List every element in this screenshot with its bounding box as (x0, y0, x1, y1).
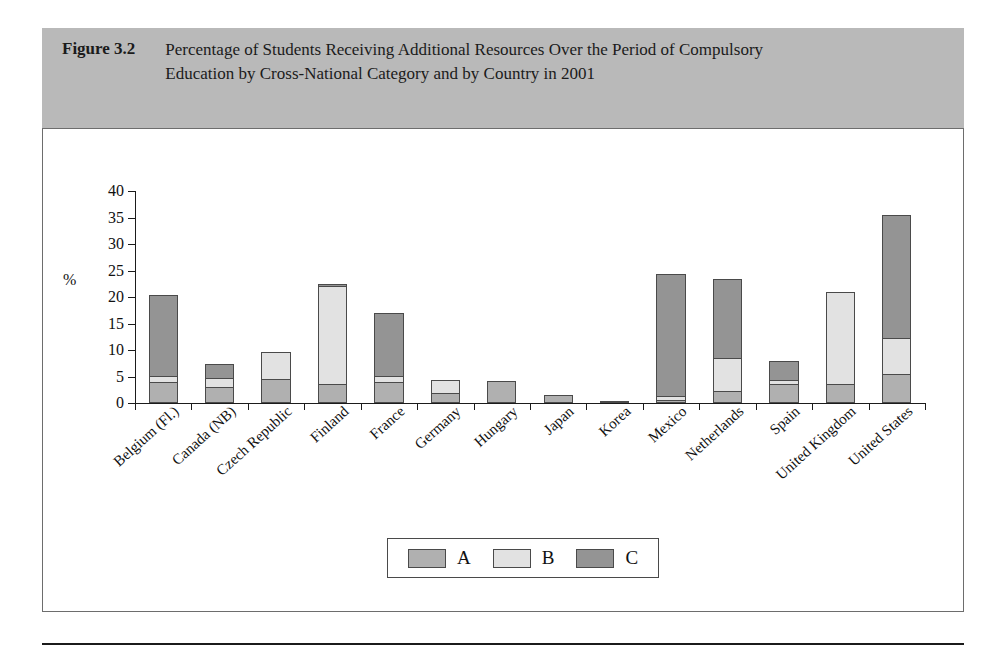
y-tick (128, 297, 135, 298)
y-tick (128, 403, 135, 404)
bar-segment-a (261, 379, 290, 403)
bar-segment-b (318, 286, 347, 385)
y-tick-label: 5 (116, 369, 124, 385)
bar-segment-a (205, 387, 234, 403)
bar-segment-c (769, 361, 798, 381)
y-tick (128, 377, 135, 378)
bar-segment-c (882, 215, 911, 339)
bar-segment-c (713, 279, 742, 359)
x-tick (304, 403, 305, 410)
legend-swatch-c-icon (576, 549, 614, 568)
figure-header-inner: Figure 3.2 Percentage of Students Receiv… (62, 38, 950, 86)
bar-segment-b (261, 352, 290, 380)
x-axis-label: Japan (541, 403, 578, 438)
figure-title: Percentage of Students Receiving Additio… (165, 38, 825, 86)
bar-segment-c (205, 364, 234, 379)
bar-netherlands (713, 280, 742, 403)
bar-segment-b (431, 380, 460, 394)
y-tick-label: 25 (108, 263, 124, 279)
y-tick-label: 15 (108, 316, 124, 332)
bar-segment-a (318, 384, 347, 403)
bar-segment-b (713, 358, 742, 392)
x-axis-label: Korea (595, 403, 634, 440)
bar-segment-b (826, 292, 855, 385)
figure-header-band: Figure 3.2 Percentage of Students Receiv… (42, 28, 964, 128)
y-axis (135, 191, 136, 403)
bar-segment-a (769, 384, 798, 403)
bar-hungary (487, 382, 516, 403)
x-tick (925, 403, 926, 410)
y-tick (128, 350, 135, 351)
figure-page: Figure 3.2 Percentage of Students Receiv… (0, 0, 1008, 667)
x-tick (530, 403, 531, 410)
x-axis-label: Spain (767, 403, 804, 438)
x-axis-label: Netherlands (682, 403, 747, 464)
bar-france (374, 314, 403, 403)
y-tick-label: 35 (108, 210, 124, 226)
x-tick (361, 403, 362, 410)
legend-swatch-a-icon (408, 549, 446, 568)
x-axis-label: Finland (306, 403, 351, 446)
bar-korea (600, 402, 629, 403)
x-tick (417, 403, 418, 410)
bar-czech-republic (261, 353, 290, 403)
x-tick (586, 403, 587, 410)
bar-segment-a (431, 393, 460, 403)
y-tick (128, 218, 135, 219)
bar-segment-a (713, 391, 742, 403)
legend-label-a: A (457, 547, 471, 569)
bar-spain (769, 362, 798, 403)
x-axis-label: France (367, 403, 409, 443)
bar-japan (544, 396, 573, 403)
bar-segment-c (149, 295, 178, 377)
x-axis-label: Hungary (471, 403, 521, 451)
x-tick (756, 403, 757, 410)
bar-segment-a (374, 382, 403, 403)
bar-segment-a (656, 400, 685, 403)
x-tick (869, 403, 870, 410)
x-tick (191, 403, 192, 410)
footer-rule (42, 643, 964, 645)
bar-united-states (882, 216, 911, 403)
x-tick (699, 403, 700, 410)
figure-number: Figure 3.2 (62, 38, 135, 59)
y-tick-label: 0 (116, 395, 124, 411)
legend-label-b: B (542, 547, 555, 569)
x-tick (248, 403, 249, 410)
bar-germany (431, 381, 460, 403)
legend-item-a: A (408, 547, 471, 569)
x-tick (643, 403, 644, 410)
bar-mexico (656, 275, 685, 403)
bar-finland (318, 285, 347, 403)
bar-belgium-fl (149, 296, 178, 403)
bar-segment-a (544, 395, 573, 403)
legend-item-c: C (576, 547, 638, 569)
bar-canada-nb (205, 365, 234, 403)
bar-united-kingdom (826, 293, 855, 403)
bar-segment-b (882, 338, 911, 376)
x-axis-label: Germany (412, 403, 465, 453)
y-tick (128, 324, 135, 325)
y-tick (128, 244, 135, 245)
bar-segment-a (882, 374, 911, 403)
legend-item-b: B (493, 547, 555, 569)
y-tick-label: 10 (108, 342, 124, 358)
x-tick (474, 403, 475, 410)
x-axis-label: Mexico (645, 403, 690, 446)
y-tick-label: 30 (108, 236, 124, 252)
y-tick-label: 40 (108, 183, 124, 199)
legend-label-c: C (625, 547, 638, 569)
y-axis-label: % (63, 271, 76, 289)
bar-segment-a (826, 384, 855, 403)
chart-legend: A B C (387, 538, 659, 578)
chart-frame: % 0510152025303540 Belgium (Fl.)Canada (… (42, 128, 964, 612)
bar-segment-a (149, 382, 178, 403)
legend-swatch-b-icon (493, 549, 531, 568)
bar-segment-c (374, 313, 403, 377)
y-tick (128, 191, 135, 192)
x-tick (135, 403, 136, 410)
x-tick (812, 403, 813, 410)
y-tick (128, 271, 135, 272)
bar-segment-a (600, 401, 629, 403)
bar-segment-a (487, 381, 516, 403)
